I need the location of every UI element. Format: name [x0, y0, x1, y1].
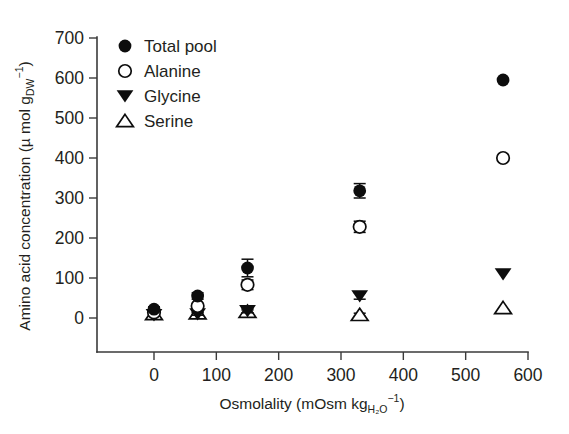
marker-filled-circle [191, 290, 204, 303]
x-tick-label: 600 [513, 365, 542, 385]
marker-open-circle [353, 221, 365, 233]
marker-open-circle [497, 152, 509, 164]
legend-item-label: Alanine [144, 62, 201, 81]
x-axis-title-tail: ) [399, 395, 404, 412]
y-axis-title-superscript: −1 [13, 66, 25, 78]
y-axis-ticks: 0100200300400500600700 [55, 28, 97, 328]
y-tick-label: 600 [55, 68, 84, 88]
marker-filled-circle [353, 184, 366, 197]
y-tick-label: 200 [55, 228, 84, 248]
legend-item-label: Glycine [144, 87, 201, 106]
x-axis-title-superscript: −1 [387, 392, 399, 404]
y-tick-label: 300 [55, 188, 84, 208]
legend-item: Alanine [119, 62, 201, 81]
legend-item-label: Total pool [144, 37, 217, 56]
series-total-pool [148, 74, 510, 316]
x-tick-label: 300 [326, 365, 355, 385]
y-axis-title-subscript: DW [24, 78, 36, 96]
marker-filled-triangle-down [117, 90, 134, 102]
x-axis-title-subscript: H₂O [368, 403, 388, 415]
y-axis-title-main: Amino acid concentration (µ mol g [16, 96, 33, 331]
legend-item: Glycine [117, 87, 201, 106]
x-axis-title: Osmolality (mOsm kgH₂O−1) [219, 392, 404, 415]
x-tick-label: 400 [389, 365, 418, 385]
marker-filled-circle [241, 262, 254, 275]
marker-open-circle [119, 65, 131, 77]
legend-item-label: Serine [144, 112, 193, 131]
x-tick-label: 100 [202, 365, 231, 385]
marker-filled-circle [148, 303, 161, 316]
marker-filled-triangle-down [495, 268, 512, 280]
amino-acid-osmolality-scatter-figure: 0100200300400500600700 01002003004005006… [0, 0, 569, 434]
marker-open-circle [241, 279, 253, 291]
y-tick-label: 700 [55, 28, 84, 48]
marker-open-triangle-up [117, 114, 134, 126]
x-axis-ticks: 0100200300400500600 [149, 352, 543, 385]
svg-text:Osmolality (mOsm kgH₂O−1): Osmolality (mOsm kgH₂O−1) [219, 392, 404, 415]
x-tick-label: 200 [264, 365, 293, 385]
data-points-layer [146, 74, 512, 322]
marker-open-triangle-up [351, 308, 368, 320]
y-tick-label: 100 [55, 268, 84, 288]
y-tick-label: 0 [74, 308, 84, 328]
marker-open-triangle-up [495, 301, 512, 313]
y-axis-title-tail: ) [16, 61, 33, 66]
x-tick-label: 500 [451, 365, 480, 385]
x-tick-label: 0 [149, 365, 159, 385]
y-axis-title: Amino acid concentration (µ mol gDW−1) [13, 61, 36, 330]
chart-canvas: 0100200300400500600700 01002003004005006… [0, 0, 569, 434]
x-axis-title-main: Osmolality (mOsm kg [219, 395, 367, 412]
marker-filled-circle [497, 74, 510, 87]
marker-filled-circle [119, 40, 132, 53]
legend: Total poolAlanineGlycineSerine [117, 37, 217, 131]
marker-filled-triangle-down [351, 290, 368, 302]
y-tick-label: 500 [55, 108, 84, 128]
legend-item: Serine [117, 112, 194, 131]
legend-item: Total pool [119, 37, 217, 56]
svg-text:Amino acid concentration (µ mo: Amino acid concentration (µ mol gDW−1) [13, 61, 36, 330]
y-tick-label: 400 [55, 148, 84, 168]
axis-lines [97, 37, 528, 352]
